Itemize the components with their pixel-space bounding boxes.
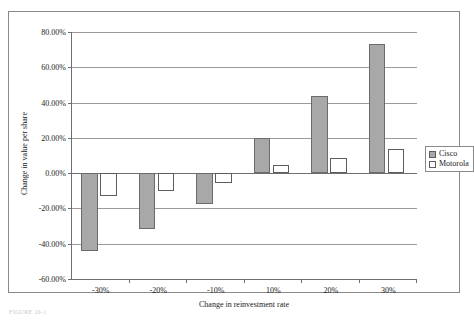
chart-legend: Cisco Motorola: [425, 146, 474, 172]
legend-item-motorola[interactable]: Motorola: [429, 160, 469, 168]
bar-group: 10%: [245, 32, 303, 279]
gridline: [72, 279, 417, 280]
x-tick-label: 20%: [323, 286, 338, 295]
legend-label-motorola: Motorola: [439, 160, 469, 168]
y-tick-label: 0.00%: [45, 169, 66, 178]
y-tick-label: -20.00%: [39, 204, 66, 213]
y-tick-label: -40.00%: [39, 239, 66, 248]
bar-cisco[interactable]: [139, 173, 156, 229]
bar-group: 30%: [360, 32, 418, 279]
x-tick-label: -20%: [150, 286, 167, 295]
bar-pair: [72, 32, 130, 279]
bar-groups: -30%-20%-10%10%20%30%: [72, 32, 417, 279]
bar-motorola[interactable]: [273, 165, 290, 173]
bar-motorola[interactable]: [388, 149, 405, 173]
x-tick-mark: [301, 279, 302, 283]
bar-cisco[interactable]: [81, 173, 98, 251]
y-tick-label: 40.00%: [41, 98, 66, 107]
y-axis-title: Change in value per share: [20, 112, 29, 195]
bar-motorola[interactable]: [100, 173, 117, 196]
chart-frame: Change in value per share 80.00%60.00%40…: [8, 11, 460, 293]
y-tick-label: 80.00%: [41, 28, 66, 37]
x-tick-mark: [244, 279, 245, 283]
x-tick-mark: [186, 279, 187, 283]
bar-pair: [360, 32, 418, 279]
x-tick-label: -10%: [207, 286, 224, 295]
bar-motorola[interactable]: [330, 158, 347, 173]
bar-group: -30%: [72, 32, 130, 279]
bar-group: 20%: [302, 32, 360, 279]
bar-pair: [245, 32, 303, 279]
y-tick-label: -60.00%: [39, 275, 66, 284]
bar-pair: [302, 32, 360, 279]
figure-caption: FIGURE 10-1: [9, 309, 46, 315]
x-tick-mark: [129, 279, 130, 283]
bar-pair: [130, 32, 188, 279]
legend-label-cisco: Cisco: [439, 150, 457, 158]
bar-motorola[interactable]: [158, 173, 175, 191]
x-tick-label: 10%: [266, 286, 281, 295]
y-tick-label: 20.00%: [41, 133, 66, 142]
x-tick-mark: [359, 279, 360, 283]
x-tick-mark: [416, 279, 417, 283]
plot-area: 80.00%60.00%40.00%20.00%0.00%-20.00%-40.…: [71, 32, 417, 279]
bar-cisco[interactable]: [369, 44, 386, 173]
bar-group: -10%: [187, 32, 245, 279]
legend-swatch-motorola: [429, 161, 436, 168]
x-tick-label: -30%: [92, 286, 109, 295]
x-tick-label: 30%: [381, 286, 396, 295]
bar-pair: [187, 32, 245, 279]
bar-group: -20%: [130, 32, 188, 279]
bar-cisco[interactable]: [311, 96, 328, 174]
bar-motorola[interactable]: [215, 173, 232, 183]
y-tick-label: 60.00%: [41, 63, 66, 72]
legend-item-cisco[interactable]: Cisco: [429, 150, 469, 158]
bar-cisco[interactable]: [254, 138, 271, 173]
legend-swatch-cisco: [429, 151, 436, 158]
x-axis-title: Change in reinvestment rate: [71, 300, 417, 309]
bar-cisco[interactable]: [196, 173, 213, 204]
y-tick-mark: [68, 279, 72, 280]
